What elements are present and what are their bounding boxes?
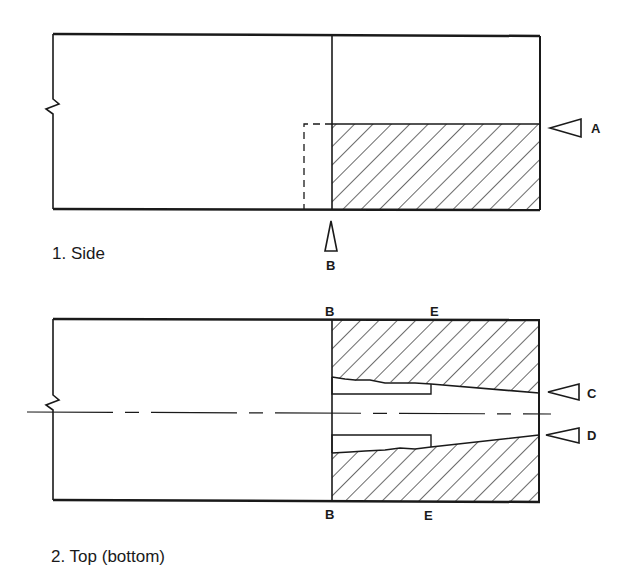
label-a: A xyxy=(591,121,601,136)
top-upper-hatched-region xyxy=(332,320,539,393)
side-hatched-region xyxy=(332,124,539,210)
top-lower-hatched-region xyxy=(332,435,539,501)
side-top-edge xyxy=(53,34,540,36)
label-b-bottom: B xyxy=(325,507,334,522)
side-bottom-edge xyxy=(53,209,540,210)
caption-top: 2. Top (bottom) xyxy=(51,547,165,566)
technical-drawing: A B 1. Side C D B E B E xyxy=(0,0,632,569)
label-e-bottom: E xyxy=(424,508,433,523)
label-c: C xyxy=(587,386,597,401)
side-hidden-line xyxy=(304,124,332,209)
label-b-side: B xyxy=(326,258,335,273)
side-view: A B 1. Side xyxy=(46,34,601,273)
centerline xyxy=(27,412,551,414)
arrow-a-icon xyxy=(550,119,581,137)
arrow-d-icon xyxy=(546,428,579,443)
top-top-edge xyxy=(53,319,540,320)
top-left-edge-break xyxy=(46,319,59,500)
caption-side: 1. Side xyxy=(52,244,105,263)
top-view: C D B E B E 2. Top (bottom) xyxy=(27,304,597,566)
side-left-edge-break xyxy=(46,34,59,209)
label-e-top: E xyxy=(430,304,439,319)
arrow-c-icon xyxy=(548,384,579,400)
arrow-b-icon xyxy=(325,221,337,251)
label-d: D xyxy=(587,428,596,443)
label-b-top: B xyxy=(325,304,334,319)
